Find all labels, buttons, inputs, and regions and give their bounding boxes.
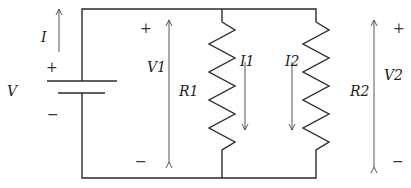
resistor-r2	[303, 22, 329, 155]
r1-label: R1	[178, 83, 198, 99]
battery-symbol	[47, 81, 117, 93]
source-plus-sign: +	[46, 59, 58, 75]
top-wire	[82, 9, 316, 81]
i1-label: I1	[239, 53, 254, 69]
v1-label: V1	[147, 59, 166, 75]
source-voltage-label: V	[7, 83, 19, 99]
bottom-wire	[82, 93, 316, 178]
r2-label: R2	[349, 83, 370, 99]
i2-label: I2	[284, 53, 300, 69]
resistor-r1	[209, 22, 235, 155]
source-minus-sign: −	[47, 106, 59, 122]
circuit-diagram: I + V − + V1 R1 I1 − I2 R2 V2 + −	[0, 0, 411, 188]
circuit-wires	[82, 9, 316, 178]
v2-label: V2	[384, 67, 403, 83]
source-current-label: I	[40, 29, 47, 45]
v2-plus-sign: +	[393, 20, 405, 36]
v2-minus-sign: −	[392, 153, 404, 169]
v1-minus-sign: −	[135, 153, 147, 169]
v1-plus-sign: +	[140, 20, 152, 36]
